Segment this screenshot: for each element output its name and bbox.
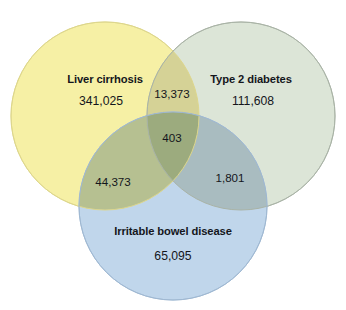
- venn-diagram: Liver cirrhosis 341,025 Type 2 diabetes …: [0, 0, 346, 310]
- venn-circles-graphic: [0, 0, 346, 310]
